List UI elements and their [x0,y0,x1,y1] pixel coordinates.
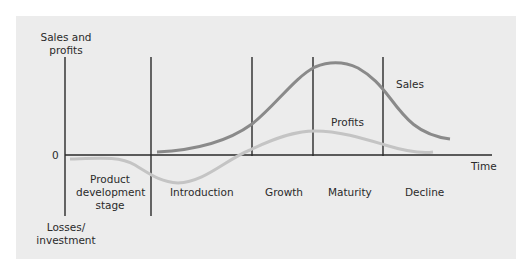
profits-curve-label: Profits [331,116,364,129]
stage-label-decline: Decline [405,186,444,199]
x-axis-label: Time [471,160,497,173]
sales-curve-label: Sales [396,78,424,91]
stage-label-maturity: Maturity [328,186,372,199]
stage-label-development: Product development stage [76,173,144,212]
y-axis-bottom-label: Losses/ investment [36,221,96,247]
y-axis-top-label: Sales and profits [40,31,92,57]
sales-curve [157,63,450,152]
stage-label-growth: Growth [265,186,303,199]
stage-label-introduction: Introduction [170,186,234,199]
zero-label: 0 [52,149,59,162]
